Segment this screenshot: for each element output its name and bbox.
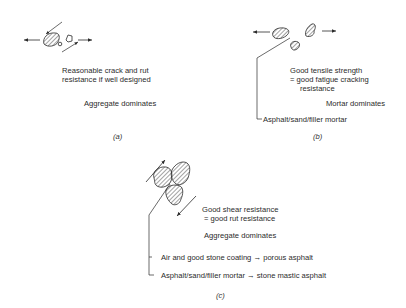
panel-c-pointer-label-porous: Air and good stone coating → porous asph… [161,253,313,262]
aggregate-stone-icon [166,185,183,205]
panel-c-description-line-1: Good shear resistance [202,205,278,214]
aggregate-stone-icon [291,41,300,50]
panel-b-description-line-2: = good fatigue cracking [290,75,369,84]
panel-b-description-line-3: resistance [300,84,335,93]
mortar-pointer-line [257,38,290,119]
panel-b-dominates: Mortar dominates [326,99,385,108]
panel-b-description-line-1: Good tensile strength [290,66,362,75]
panel-c-description-line-2: = good rut resistance [204,214,275,223]
panel-a-caption: (a) [113,132,122,141]
aggregate-stone-icon [171,162,190,185]
panel-c-caption: (c) [216,291,225,300]
small-stone-icon [66,35,72,42]
panel-a-description-line-2: resistance if well designed [62,75,151,84]
panel-b-pointer-label: Asphalt/sand/filler mortar [263,115,347,124]
aggregate-stone-icon [305,24,315,37]
panel-a-dominates: Aggregate dominates [84,99,156,108]
pointer-line-sma [149,257,154,275]
aggregate-stone-icon [273,28,289,39]
shear-arrow-top-icon [46,22,62,34]
panel-a-description-line-1: Reasonable crack and rut [62,66,149,75]
panel-a-aggregate-icon [24,22,92,52]
panel-c-pointer-label-sma: Asphalt/sand/filler mortar → stone masti… [161,271,326,280]
shear-arrow-bottom-icon [62,42,78,52]
aggregate-stone-icon [44,33,60,46]
panel-c-dominates: Aggregate dominates [204,231,276,240]
aggregate-stone-icon [154,167,172,187]
small-stone-icon [58,42,62,46]
panel-b-caption: (b) [313,132,322,141]
